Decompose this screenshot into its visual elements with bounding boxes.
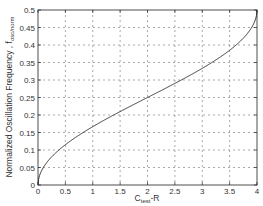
y-tick-label: 0.05: [19, 164, 35, 173]
y-tick-label: 0.35: [19, 59, 35, 68]
y-tick-label: 0: [31, 181, 36, 190]
y-tick-label: 0.25: [19, 94, 35, 103]
y-tick-label: 0.2: [24, 111, 36, 120]
y-axis-ticks: 00.050.10.150.20.250.30.350.40.450.5: [19, 6, 257, 190]
y-tick-label: 0.15: [19, 129, 35, 138]
chart: 00.511.522.533.54 00.050.10.150.20.250.3…: [0, 0, 263, 206]
y-tick-label: 0.45: [19, 24, 35, 33]
y-tick-label: 0.4: [24, 41, 36, 50]
x-tick-label: 1.5: [115, 187, 127, 196]
x-tick-label: 4: [255, 187, 260, 196]
y-tick-label: 0.3: [24, 76, 36, 85]
x-axis-ticks: 00.511.522.533.54: [36, 10, 260, 196]
x-tick-label: 2.5: [169, 187, 181, 196]
x-tick-label: 0.5: [60, 187, 72, 196]
x-tick-label: 3.5: [224, 187, 236, 196]
x-tick-label: 0: [36, 187, 41, 196]
x-tick-label: 3: [200, 187, 205, 196]
y-axis-label: Normalized Oscillation Frequency , fosc/…: [4, 16, 15, 177]
y-tick-label: 0.5: [24, 6, 36, 15]
x-tick-label: 1: [91, 187, 96, 196]
y-tick-label: 0.1: [24, 146, 36, 155]
